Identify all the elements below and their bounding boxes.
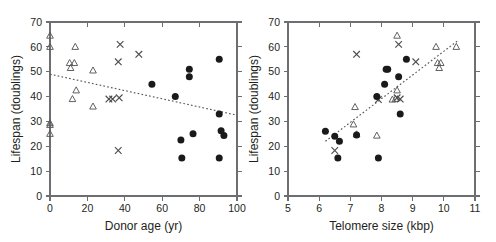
y-tick-label: 60 xyxy=(30,41,42,53)
data-point-circle xyxy=(177,137,184,144)
y-tick-label: 50 xyxy=(30,65,42,77)
data-point-circle xyxy=(403,56,410,63)
data-point-cross xyxy=(106,96,113,103)
data-point-circle xyxy=(336,138,343,145)
data-point-circle xyxy=(322,128,329,135)
data-point-cross xyxy=(353,51,360,58)
data-point-cross xyxy=(117,41,124,48)
data-point-circle xyxy=(216,56,223,63)
data-point-triangle xyxy=(394,32,401,38)
y-tick-label: 0 xyxy=(36,190,42,202)
y-tick-label: 20 xyxy=(268,140,280,152)
data-point-circle xyxy=(353,132,360,139)
data-point-circle xyxy=(381,81,388,88)
y-tick-label: 50 xyxy=(268,65,280,77)
panel-left-points xyxy=(47,32,228,161)
y-tick-label: 70 xyxy=(268,16,280,28)
panel-right-axes xyxy=(284,22,480,201)
panel-right-points xyxy=(322,32,460,161)
y-tick-label: 30 xyxy=(30,115,42,127)
data-point-cross xyxy=(109,96,116,103)
data-point-triangle xyxy=(90,103,97,109)
data-point-cross xyxy=(412,58,419,65)
x-axis-title: Telomere size (kbp) xyxy=(329,219,434,233)
data-point-circle xyxy=(395,73,402,80)
scatter-panel-donor-age: 010203040506070020406080100Donor age (yr… xyxy=(0,0,248,242)
data-point-cross xyxy=(136,51,143,58)
y-tick-label: 60 xyxy=(268,41,280,53)
data-point-circle xyxy=(375,154,382,161)
y-tick-label: 10 xyxy=(30,165,42,177)
panel-right-labels: 010203040506070567891011Telomere size (k… xyxy=(248,16,481,233)
data-point-cross xyxy=(115,58,122,65)
panel-left-axes xyxy=(46,22,242,201)
data-point-circle xyxy=(178,154,185,161)
data-point-circle xyxy=(220,132,227,139)
x-tick-label: 7 xyxy=(347,202,353,214)
data-point-triangle xyxy=(71,60,78,66)
y-tick-label: 30 xyxy=(268,115,280,127)
data-point-cross xyxy=(395,41,402,48)
data-point-cross xyxy=(116,95,123,102)
data-point-triangle xyxy=(374,132,381,138)
data-point-circle xyxy=(172,93,179,100)
panel-left-svg: 010203040506070020406080100Donor age (yr… xyxy=(0,0,248,242)
x-tick-label: 10 xyxy=(438,202,450,214)
data-point-triangle xyxy=(394,87,401,93)
data-point-circle xyxy=(186,73,193,80)
y-axis-title: Lifespan (doublings) xyxy=(248,55,261,163)
figure-container: 010203040506070020406080100Donor age (yr… xyxy=(0,0,496,242)
y-axis-title: Lifespan (doublings) xyxy=(9,55,23,163)
data-point-circle xyxy=(373,93,380,100)
data-point-circle xyxy=(397,110,404,117)
data-point-cross xyxy=(115,147,122,154)
trendline xyxy=(325,41,457,142)
scatter-panel-telomere-size: 010203040506070567891011Telomere size (k… xyxy=(248,0,496,242)
panel-left-labels: 010203040506070020406080100Donor age (yr… xyxy=(9,16,246,233)
x-tick-label: 80 xyxy=(194,202,206,214)
data-point-cross xyxy=(331,147,338,154)
data-point-circle xyxy=(186,66,193,73)
x-tick-label: 11 xyxy=(470,202,481,214)
panel-right-svg: 010203040506070567891011Telomere size (k… xyxy=(248,0,496,242)
y-tick-label: 40 xyxy=(30,90,42,102)
data-point-circle xyxy=(216,110,223,117)
y-tick-label: 70 xyxy=(30,16,42,28)
data-point-circle xyxy=(148,81,155,88)
x-tick-label: 9 xyxy=(410,202,416,214)
panel-right-trendline xyxy=(325,41,457,142)
x-tick-label: 60 xyxy=(156,202,168,214)
y-tick-label: 20 xyxy=(30,140,42,152)
panel-left-trendline xyxy=(50,74,237,115)
data-point-triangle xyxy=(69,96,76,102)
data-point-triangle xyxy=(433,43,440,49)
data-point-circle xyxy=(334,154,341,161)
data-point-triangle xyxy=(73,87,80,93)
y-tick-label: 40 xyxy=(268,90,280,102)
data-point-triangle xyxy=(90,67,97,73)
data-point-circle xyxy=(190,130,197,137)
data-point-triangle xyxy=(72,43,79,49)
trendline xyxy=(50,74,237,115)
data-point-circle xyxy=(383,66,390,73)
x-tick-label: 100 xyxy=(228,202,246,214)
y-tick-label: 10 xyxy=(268,165,280,177)
x-tick-label: 40 xyxy=(119,202,131,214)
x-tick-label: 8 xyxy=(379,202,385,214)
x-axis-title: Donor age (yr) xyxy=(105,219,182,233)
y-tick-label: 0 xyxy=(274,190,280,202)
data-point-triangle xyxy=(352,104,359,110)
x-tick-label: 0 xyxy=(47,202,53,214)
x-tick-label: 20 xyxy=(82,202,94,214)
data-point-circle xyxy=(216,154,223,161)
x-tick-label: 5 xyxy=(285,202,291,214)
x-tick-label: 6 xyxy=(316,202,322,214)
